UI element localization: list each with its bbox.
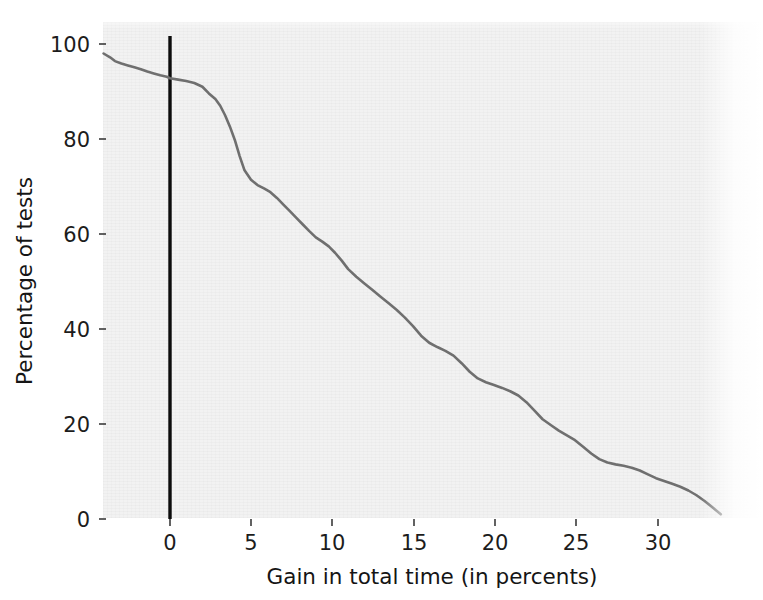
x-tick-label-5: 5 <box>244 531 257 555</box>
y-tick-label-40: 40 <box>63 318 90 342</box>
x-tick-label-25: 25 <box>563 531 590 555</box>
x-tick-label-0: 0 <box>163 531 176 555</box>
x-tick-label-10: 10 <box>319 531 346 555</box>
x-axis-tick-labels: 0 5 10 15 20 25 30 <box>163 531 671 555</box>
y-tick-label-60: 60 <box>63 223 90 247</box>
line-chart: 100 80 60 40 20 0 0 5 10 15 20 25 30 <box>0 0 763 600</box>
x-axis-title: Gain in total time (in percents) <box>267 564 598 589</box>
y-tick-label-80: 80 <box>63 128 90 152</box>
data-series-line <box>104 54 721 515</box>
y-tick-label-0: 0 <box>77 508 90 532</box>
x-tick-label-20: 20 <box>482 531 509 555</box>
y-tick-label-100: 100 <box>50 33 90 57</box>
chart-figure: 100 80 60 40 20 0 0 5 10 15 20 25 30 <box>0 0 763 600</box>
y-axis-title: Percentage of tests <box>12 177 37 385</box>
y-tick-label-20: 20 <box>63 413 90 437</box>
x-tick-label-30: 30 <box>645 531 672 555</box>
x-tick-label-15: 15 <box>401 531 428 555</box>
y-axis-tick-labels: 100 80 60 40 20 0 <box>50 33 90 532</box>
y-axis-tick-marks <box>99 44 106 519</box>
x-axis-tick-marks <box>170 519 658 526</box>
